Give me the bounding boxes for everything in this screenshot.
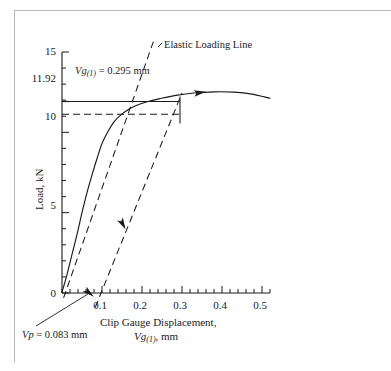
- y-tick-label-0: 0: [12, 288, 56, 299]
- x-tick-label-0-3: 0.3: [166, 300, 194, 311]
- y-axis-ticks: [62, 52, 69, 293]
- x-tick-label-0-2: 0.2: [126, 300, 154, 311]
- direction-arrow-markers: [83, 89, 207, 300]
- y-tick-label-15: 15: [12, 46, 56, 57]
- x-tick-label-0-4: 0.4: [206, 300, 234, 311]
- annotation-vp-value: = 0.083 mm: [34, 329, 88, 340]
- x-tick-label-0-1: 0.1: [86, 300, 114, 311]
- x-axis-title-line1: Clip Gauge Displacement,: [100, 317, 216, 328]
- annotation-vg1-value: = 0.295 mm: [96, 65, 150, 76]
- x-axis-ticks: [62, 286, 270, 293]
- annotation-vg1: Vg(1) = 0.295 mm: [75, 66, 150, 78]
- x-axis-title-units: , mm: [156, 330, 179, 342]
- series-load-displacement-curve: [62, 92, 270, 292]
- x-tick-label-0-5: 0.5: [246, 300, 274, 311]
- annotation-elastic-loading-line: Elastic Loading Line: [164, 40, 252, 51]
- x-axis-title-line2: Vg(1), mm: [134, 331, 178, 344]
- annotation-vp: Vp = 0.083 mm: [22, 330, 87, 341]
- annotation-vg1-sub: (1): [87, 69, 96, 78]
- annotation-vp-symbol: Vp: [22, 329, 34, 340]
- annotation-vg1-symbol: Vg: [75, 65, 87, 76]
- y-axis-title: Load, kN: [34, 168, 45, 210]
- x-axis-title-vg-sub: (1): [146, 335, 155, 344]
- data-series-group: [62, 38, 270, 308]
- guide-lines: [62, 96, 180, 123]
- y-tick-label-10: 10: [12, 111, 56, 122]
- series-offset-compliance-line: [95, 93, 182, 307]
- y-tick-label-11-92: 11.92: [6, 73, 56, 84]
- x-axis-title-vg: Vg: [134, 330, 146, 342]
- elastic-label-leader: [158, 43, 162, 47]
